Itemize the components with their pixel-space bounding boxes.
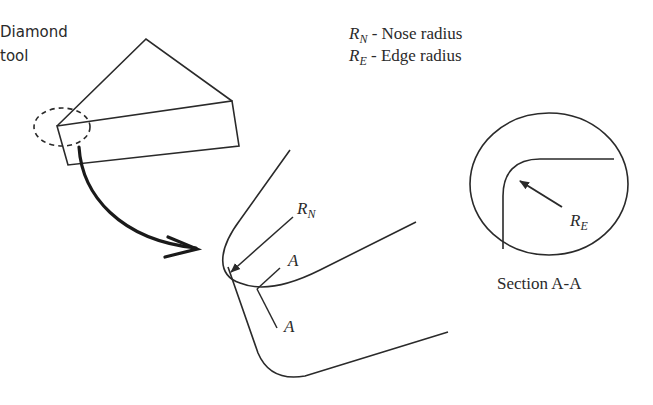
- legend-text: - Nose radius: [367, 24, 462, 43]
- diamond-tool-label-line2: tool: [0, 49, 28, 64]
- legend-symbol: R: [349, 24, 359, 43]
- section-view: [470, 113, 628, 255]
- diamond-tool-shape: [57, 39, 239, 165]
- legend-subscript: E: [359, 54, 366, 68]
- diamond-tool-label-line1: Diamond: [0, 25, 68, 40]
- legend-edge-radius: RE - Edge radius: [349, 47, 462, 67]
- edge-radius-arrow: [520, 181, 562, 207]
- section-cut-line: [257, 268, 280, 328]
- legend-nose-radius: RN - Nose radius: [349, 25, 462, 45]
- symbol: R: [570, 211, 580, 230]
- nose-highlight-circle: [34, 108, 90, 146]
- legend-symbol: R: [349, 46, 359, 65]
- nose-detail: [223, 150, 448, 377]
- nose-radius-arrow: [231, 217, 293, 272]
- subscript: E: [580, 219, 587, 233]
- diagram-canvas: [0, 0, 653, 405]
- subscript: N: [307, 207, 315, 221]
- section-caption: Section A-A: [497, 275, 582, 292]
- nose-radius-label: RN: [297, 200, 315, 220]
- magnify-arrow: [79, 147, 197, 257]
- edge-radius-label: RE: [570, 212, 588, 232]
- section-mark-bottom: A: [284, 318, 294, 335]
- symbol: R: [297, 199, 307, 218]
- legend-text: - Edge radius: [367, 46, 462, 65]
- section-mark-top: A: [288, 252, 298, 269]
